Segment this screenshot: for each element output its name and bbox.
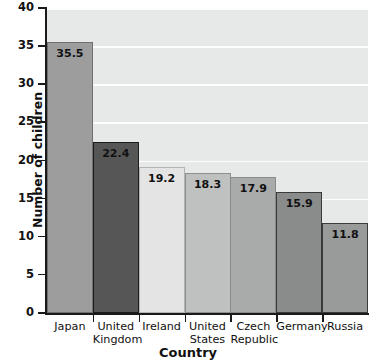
y-axis-tick-label: 0 <box>4 305 34 319</box>
bar-chart-figure: Number of children Country 0510152025303… <box>0 0 376 364</box>
y-axis-tick <box>38 236 46 238</box>
bar[interactable]: 18.3 <box>185 173 231 313</box>
y-axis-tick <box>38 312 46 314</box>
x-axis-tick-label: UnitedKingdom <box>93 320 139 346</box>
y-axis-tick <box>38 274 46 276</box>
y-axis-tick <box>38 83 46 85</box>
x-axis-tick-label: Russia <box>322 320 368 333</box>
x-axis-tick-label: CzechRepublic <box>230 320 276 346</box>
y-axis-tick-label: 40 <box>4 0 34 14</box>
bar-value-label: 19.2 <box>140 172 184 185</box>
x-axis-tick-label: Japan <box>47 320 93 333</box>
y-axis-tick <box>38 160 46 162</box>
x-axis-tick-label: Germany <box>276 320 322 333</box>
bar-value-label: 15.9 <box>277 197 321 210</box>
y-axis-tick <box>38 198 46 200</box>
y-axis-tick <box>38 121 46 123</box>
x-axis-title: Country <box>0 345 376 360</box>
bar[interactable]: 11.8 <box>322 223 368 313</box>
y-axis-tick <box>38 45 46 47</box>
y-axis-tick-label: 30 <box>4 76 34 90</box>
bar[interactable]: 15.9 <box>276 192 322 313</box>
y-axis-tick-label: 15 <box>4 191 34 205</box>
gridline <box>47 46 368 48</box>
y-axis-tick-label: 10 <box>4 229 34 243</box>
y-axis-tick-label: 25 <box>4 114 34 128</box>
bar-value-label: 35.5 <box>48 47 92 60</box>
y-axis-tick <box>38 7 46 9</box>
bar[interactable]: 17.9 <box>230 177 276 313</box>
bar[interactable]: 19.2 <box>139 167 185 313</box>
gridline <box>47 122 368 124</box>
bar[interactable]: 22.4 <box>93 142 139 313</box>
y-axis-tick-label: 20 <box>4 153 34 167</box>
x-axis-tick-label: Ireland <box>139 320 185 333</box>
bar-value-label: 11.8 <box>323 228 367 241</box>
y-axis-tick-label: 5 <box>4 267 34 281</box>
bar-value-label: 22.4 <box>94 147 138 160</box>
bar[interactable]: 35.5 <box>47 42 93 313</box>
gridline <box>47 84 368 86</box>
y-axis-tick-label: 35 <box>4 38 34 52</box>
bar-value-label: 18.3 <box>186 178 230 191</box>
x-axis-tick-label: UnitedStates <box>185 320 231 346</box>
gridline <box>47 8 368 10</box>
bar-value-label: 17.9 <box>231 182 275 195</box>
